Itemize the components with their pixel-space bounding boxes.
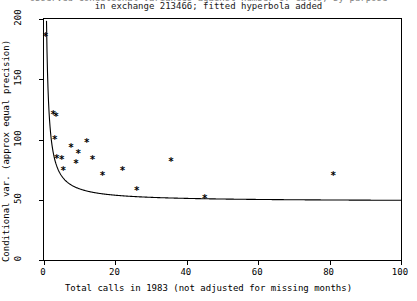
y-tick-label: 50: [14, 180, 23, 216]
data-point-marker: *: [201, 194, 209, 202]
x-tick-label: 0: [23, 268, 63, 277]
data-point-marker: *: [99, 171, 107, 179]
data-point-marker: *: [58, 155, 66, 163]
data-point-marker: *: [74, 149, 82, 157]
x-tick: [115, 260, 116, 265]
x-tick: [330, 260, 331, 265]
x-axis-title: Total calls in 1983 (not adjusted for mi…: [0, 283, 417, 293]
x-tick: [187, 260, 188, 265]
data-point-marker: *: [167, 157, 175, 165]
data-point-marker: *: [133, 186, 141, 194]
data-point-marker: *: [52, 112, 60, 120]
x-tick-label: 100: [380, 268, 417, 277]
plot-area: ******************: [43, 18, 402, 261]
y-tick: [39, 19, 44, 20]
data-point-marker: *: [72, 159, 80, 167]
y-tick-label: 0: [14, 241, 23, 277]
x-tick-label: 80: [309, 268, 349, 277]
y-tick: [39, 200, 44, 201]
y-tick: [39, 79, 44, 80]
plot-canvas: ******************: [44, 19, 401, 260]
x-tick: [258, 260, 259, 265]
data-point-marker: *: [51, 135, 59, 143]
data-point-marker: *: [329, 171, 337, 179]
y-tick: [39, 140, 44, 141]
y-tick-label: 200: [14, 0, 23, 36]
data-point-marker: *: [89, 155, 97, 163]
x-tick-label: 20: [94, 268, 134, 277]
y-tick-label: 150: [14, 60, 23, 96]
data-point-marker: *: [119, 166, 127, 174]
y-axis-title: Conditional var. (approx equal precision…: [1, 31, 11, 271]
x-tick: [401, 260, 402, 265]
x-tick-label: 40: [166, 268, 206, 277]
x-tick: [44, 260, 45, 265]
data-point-marker: *: [59, 166, 67, 174]
chart-figure: observed conditional variances against n…: [0, 0, 417, 301]
data-point-marker: *: [83, 138, 91, 146]
fitted-hyperbola-curve: [44, 19, 401, 260]
chart-title: in exchange 213466; fitted hyperbola add…: [0, 1, 417, 11]
y-tick-label: 100: [14, 120, 23, 156]
data-point-marker: *: [41, 32, 49, 40]
x-tick-label: 60: [237, 268, 277, 277]
